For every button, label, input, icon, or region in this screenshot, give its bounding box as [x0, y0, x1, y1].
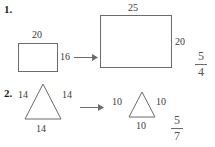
problem-1-large-rect-right-label: 20	[175, 37, 185, 47]
problem-2-number: 2.	[4, 88, 12, 99]
problem-2-big-triangle-right-label: 14	[62, 90, 72, 100]
problem-2-answer-fraction: 5 7	[171, 114, 183, 142]
problem-2-small-triangle	[128, 91, 156, 119]
worksheet-canvas: 1. 20 16 25 20 5 4 2. 14 14 14	[0, 0, 215, 147]
problem-2-answer-denominator: 7	[171, 130, 183, 143]
problem-1-answer-denominator: 4	[195, 66, 207, 79]
problem-1-small-rectangle	[18, 43, 58, 72]
problem-1-answer-numerator: 5	[195, 50, 207, 63]
problem-1-small-rect-top-label: 20	[32, 30, 42, 40]
problem-2-small-triangle-bottom-label: 10	[136, 121, 146, 131]
problem-1-number: 1.	[4, 4, 12, 15]
problem-2-big-triangle-bottom-label: 14	[36, 124, 46, 134]
problem-2-small-triangle-left-label: 10	[112, 97, 122, 107]
problem-1-answer-fraction: 5 4	[195, 50, 207, 78]
problem-1-large-rectangle	[100, 15, 172, 68]
problem-1-right-arrow-icon	[74, 51, 98, 64]
problem-1-large-rect-top-label: 25	[128, 3, 138, 13]
problem-2-small-triangle-right-label: 10	[156, 97, 166, 107]
problem-2-answer-numerator: 5	[171, 114, 183, 127]
problem-1-small-rect-right-label: 16	[60, 52, 70, 62]
problem-2-right-arrow-icon	[80, 101, 104, 114]
problem-2-big-triangle	[24, 83, 62, 121]
